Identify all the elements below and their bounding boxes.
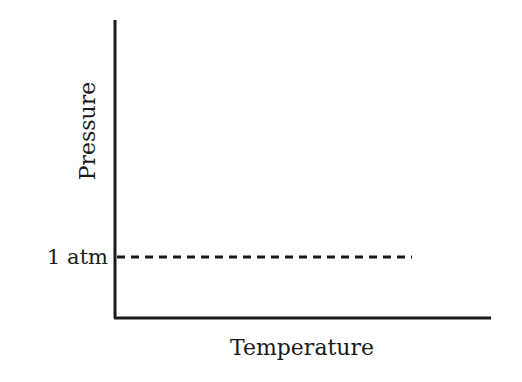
- phase-diagram: Pressure 1 atm Temperature: [0, 0, 522, 382]
- y-axis-label: Pressure: [75, 82, 100, 181]
- x-axis-label: Temperature: [230, 335, 374, 360]
- one-atm-label: 1 atm: [47, 245, 108, 269]
